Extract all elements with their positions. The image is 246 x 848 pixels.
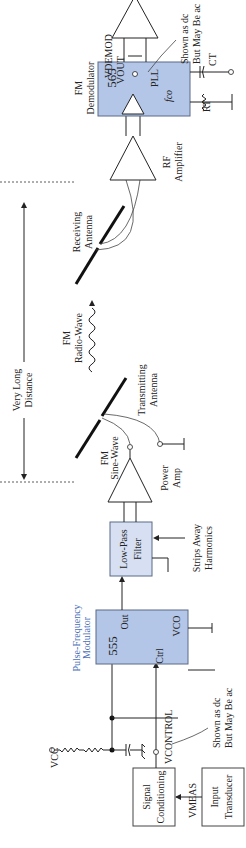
radio-wave-label: FM bbox=[61, 331, 72, 346]
input-transducer-label: Input bbox=[209, 786, 220, 807]
svg-text:Sine-Wave: Sine-Wave bbox=[109, 436, 120, 480]
svg-text:Antenna: Antenna bbox=[83, 215, 94, 249]
fm-system-diagram: Input Transducer VMEAS Signal Conditioni… bbox=[0, 0, 246, 848]
svg-text:But May Be ac: But May Be ac bbox=[191, 3, 202, 64]
transmitting-antenna-label: Transmitting bbox=[136, 364, 147, 415]
vmeas-arrow-icon bbox=[175, 794, 181, 800]
svg-text:Amplifier: Amplifier bbox=[173, 142, 184, 182]
ct-label: CT bbox=[207, 53, 218, 66]
fco-label: fco bbox=[163, 90, 174, 102]
svg-text:Out: Out bbox=[119, 614, 130, 629]
svg-text:Demodulator: Demodulator bbox=[85, 61, 96, 114]
distance-arrow-icon bbox=[21, 474, 27, 480]
svg-text:Antenna: Antenna bbox=[148, 373, 159, 407]
signal-conditioning-block bbox=[133, 768, 175, 826]
vcc-resistors bbox=[54, 748, 112, 752]
svg-text:Filter: Filter bbox=[132, 538, 143, 560]
vout-label: VOUT bbox=[115, 56, 126, 84]
rf-amplifier-label: RF bbox=[161, 155, 172, 168]
svg-text:Ctrl: Ctrl bbox=[154, 648, 165, 664]
distance-label: Very Long bbox=[11, 369, 22, 412]
svg-text:PLL: PLL bbox=[149, 69, 160, 87]
svg-text:Harmonics: Harmonics bbox=[203, 526, 214, 570]
vcontrol-terminal bbox=[154, 750, 159, 755]
signal-conditioning-label: Signal bbox=[141, 784, 152, 810]
svg-text:Transducer: Transducer bbox=[223, 774, 234, 819]
svg-text:Radio-Wave: Radio-Wave bbox=[73, 313, 84, 363]
svg-text:Distance: Distance bbox=[23, 372, 34, 408]
chip-555-label: 555 bbox=[105, 636, 120, 656]
svg-text:Modulator: Modulator bbox=[81, 616, 92, 659]
receiving-antenna-label: Receiving bbox=[71, 212, 82, 253]
receiving-antenna-lower bbox=[76, 248, 98, 284]
power-amp-label: Power bbox=[159, 465, 170, 491]
vcontrol-note: Shown as dc bbox=[211, 697, 222, 748]
vout-terminal bbox=[133, 72, 138, 77]
low-pass-filter-block bbox=[110, 522, 152, 576]
vcontrol-note-pointer bbox=[172, 728, 208, 744]
svg-text:But May Be ac: But May Be ac bbox=[223, 687, 234, 748]
fm-demodulator-label: FM bbox=[73, 81, 84, 96]
svg-text:Amp: Amp bbox=[171, 468, 182, 488]
low-pass-filter-label: Low-Pass bbox=[118, 529, 129, 569]
svg-text:Conditioning: Conditioning bbox=[155, 771, 166, 824]
vdemod-label: VDEMOD bbox=[103, 34, 114, 78]
radio-wave-icon bbox=[89, 308, 95, 372]
lpf-input-arrow-icon bbox=[119, 576, 125, 582]
rf-amplifier-icon bbox=[110, 136, 156, 180]
rt-label: RT bbox=[201, 100, 212, 112]
svg-text:VCO: VCO bbox=[171, 615, 182, 636]
vmeas-label: VMEAS bbox=[187, 783, 198, 818]
transmitting-antenna-upper bbox=[102, 378, 126, 416]
transmitting-antenna-lower bbox=[76, 420, 100, 458]
output-buffer-icon bbox=[112, 0, 158, 38]
strips-harmonics-label: Strips Away bbox=[191, 524, 202, 572]
vout-note: Shown as dc bbox=[179, 13, 190, 64]
receiving-antenna-upper bbox=[100, 206, 124, 244]
